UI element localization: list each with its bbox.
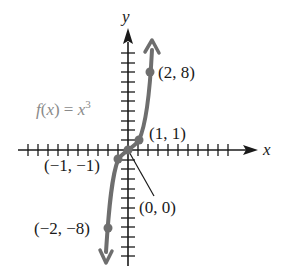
point-label-2-8: (2, 8) xyxy=(158,64,195,81)
point-2-8 xyxy=(146,68,155,77)
point-label-0-0: (0, 0) xyxy=(139,199,176,216)
function-label: f(x) = x3 xyxy=(36,99,91,118)
point-label-neg1-neg1: (−1, −1) xyxy=(44,157,100,174)
func-exponent: 3 xyxy=(85,98,91,110)
x-axis xyxy=(18,144,258,156)
point-1-1 xyxy=(135,136,144,145)
func-equals: ) = xyxy=(54,100,78,119)
y-axis-label: y xyxy=(122,8,130,25)
point-neg1-neg1 xyxy=(114,155,123,164)
y-axis-arrow-icon xyxy=(123,28,133,44)
point-label-1-1: (1, 1) xyxy=(149,125,186,142)
point-label-neg2-neg8: (−2, −8) xyxy=(34,220,90,237)
point-neg2-neg8 xyxy=(104,224,113,233)
func-var: x xyxy=(46,100,54,119)
x-axis-label: x xyxy=(263,141,271,158)
point-0-0 xyxy=(124,146,133,155)
